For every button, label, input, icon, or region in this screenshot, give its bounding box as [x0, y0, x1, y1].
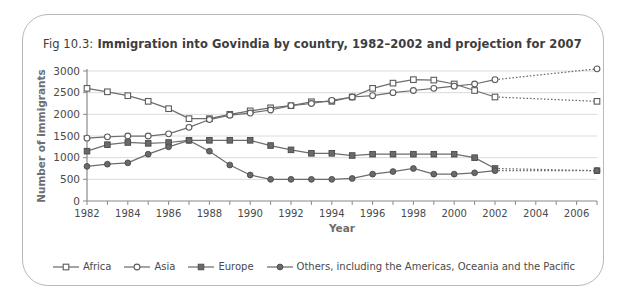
marker-open-circle [370, 93, 376, 99]
marker-open-circle [247, 110, 253, 116]
marker-filled-square [207, 138, 213, 144]
x-tick-label: 1992 [278, 208, 303, 219]
marker-filled-square [390, 151, 396, 157]
legend-item[interactable]: Others, including the Americas, Oceania … [267, 261, 576, 272]
marker-filled-circle [451, 171, 457, 177]
marker-open-square [390, 80, 396, 86]
marker-filled-square [268, 143, 274, 149]
marker-open-square [411, 77, 417, 83]
x-tick-label: 1998 [401, 208, 426, 219]
marker-open-circle [349, 94, 355, 100]
marker-open-circle [492, 77, 498, 83]
marker-filled-square [227, 138, 233, 144]
y-tick-label: 1500 [53, 130, 80, 142]
x-tick-label: 1986 [156, 208, 181, 219]
x-tick-label: 1990 [237, 208, 262, 219]
marker-open-circle [105, 134, 111, 140]
marker-filled-square [84, 148, 90, 154]
marker-open-circle [329, 98, 335, 104]
marker-open-circle [84, 135, 90, 141]
series-projection-line [495, 69, 597, 80]
figure-label: Fig 10.3: [43, 37, 93, 51]
marker-filled-square [199, 264, 205, 270]
marker-filled-circle [247, 172, 253, 178]
x-axis-title: Year [328, 222, 356, 234]
marker-open-circle [431, 85, 437, 91]
marker-filled-circle [105, 161, 111, 167]
series-asia [84, 66, 600, 141]
figure-title: Fig 10.3: Immigration into Govindia by c… [43, 37, 589, 51]
marker-open-square [492, 94, 498, 100]
y-tick-label: 2000 [53, 108, 80, 120]
marker-filled-circle [492, 168, 498, 174]
marker-open-square [594, 99, 600, 105]
marker-filled-circle [309, 176, 315, 182]
marker-filled-square [247, 138, 253, 144]
marker-filled-circle [145, 151, 151, 157]
marker-open-square [84, 86, 90, 92]
marker-open-circle [125, 133, 131, 139]
marker-filled-square [125, 140, 131, 146]
y-tick-label: 3000 [53, 65, 80, 77]
marker-filled-circle [594, 168, 600, 174]
x-tick-label: 1994 [319, 208, 344, 219]
marker-open-circle [145, 133, 151, 139]
marker-filled-circle [472, 170, 478, 176]
legend-swatch-open-square [53, 262, 79, 272]
series-others [84, 137, 600, 182]
legend-label: Africa [83, 261, 112, 272]
marker-open-square [472, 88, 478, 94]
marker-open-circle [166, 131, 172, 137]
marker-filled-square [329, 151, 335, 157]
marker-filled-square [370, 151, 376, 157]
marker-open-square [63, 264, 69, 270]
series-europe [84, 138, 600, 174]
marker-filled-circle [277, 264, 283, 270]
marker-open-circle [451, 83, 457, 89]
marker-filled-square [105, 142, 111, 148]
marker-filled-circle [370, 171, 376, 177]
x-tick-label: 2004 [523, 208, 548, 219]
figure-panel: Fig 10.3: Immigration into Govindia by c… [22, 14, 604, 286]
legend-item[interactable]: Africa [53, 261, 112, 272]
marker-filled-circle [125, 160, 131, 166]
legend-label: Europe [218, 261, 253, 272]
legend-label: Asia [154, 261, 175, 272]
marker-filled-circle [84, 163, 90, 169]
x-tick-label: 1996 [360, 208, 385, 219]
marker-open-square [431, 77, 437, 83]
marker-filled-circle [166, 144, 172, 150]
legend-label: Others, including the Americas, Oceania … [297, 261, 576, 272]
marker-open-circle [309, 101, 315, 107]
figure-title-text: Immigration into Govindia by country, 19… [97, 37, 581, 51]
marker-open-circle [594, 66, 600, 72]
marker-filled-circle [329, 176, 335, 182]
marker-filled-square [288, 147, 294, 153]
marker-filled-square [431, 151, 437, 157]
marker-filled-circle [227, 162, 233, 168]
y-tick-label: 1000 [53, 151, 80, 163]
series-projection-line [495, 97, 597, 101]
legend-item[interactable]: Asia [124, 261, 175, 272]
y-axis-title: Number of immigrants [35, 69, 47, 203]
marker-filled-circle [390, 169, 396, 175]
marker-open-circle [411, 88, 417, 94]
marker-open-circle [268, 107, 274, 113]
x-tick-label: 1982 [74, 208, 99, 219]
marker-open-circle [390, 90, 396, 96]
marker-open-circle [472, 81, 478, 87]
marker-filled-square [411, 151, 417, 157]
legend-item[interactable]: Europe [188, 261, 253, 272]
x-tick-label: 1988 [197, 208, 222, 219]
marker-filled-square [145, 141, 151, 147]
marker-open-square [125, 93, 131, 99]
marker-open-circle [186, 124, 192, 130]
marker-open-circle [227, 112, 233, 118]
marker-open-circle [207, 117, 213, 123]
marker-filled-square [349, 153, 355, 159]
y-tick-label: 500 [60, 173, 80, 185]
marker-filled-circle [288, 176, 294, 182]
marker-open-square [105, 89, 111, 95]
x-tick-label: 1984 [115, 208, 140, 219]
x-tick-label: 2000 [441, 208, 466, 219]
